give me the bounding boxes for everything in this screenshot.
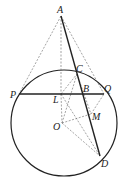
segment-OM [62,114,91,123]
label-C: C [76,63,83,74]
segment-AD [61,16,100,156]
label-Q: Q [104,83,112,94]
label-P: P [9,89,16,100]
label-B: B [83,83,89,94]
segment-OD [62,123,100,156]
label-O: O [53,121,60,132]
label-D: D [100,158,109,169]
label-M: M [91,111,101,122]
label-L: L [52,94,59,105]
segment-LD [61,94,100,156]
label-A: A [56,4,64,15]
segment-AP [19,16,61,94]
segment-LO [61,94,62,123]
geometry-diagram: A P Q B C L O M D [0,0,122,187]
segment-LC [61,74,77,94]
